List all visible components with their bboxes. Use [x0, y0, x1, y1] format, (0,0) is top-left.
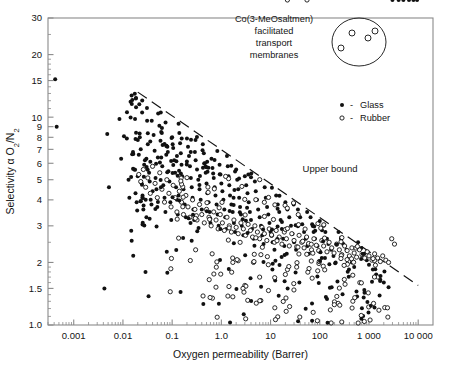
glass-point [367, 310, 371, 314]
rubber-point [207, 278, 211, 282]
glass-point [134, 137, 138, 141]
glass-point [378, 293, 382, 297]
glass-point [156, 200, 160, 204]
rubber-point [343, 282, 347, 286]
glass-point [171, 195, 175, 199]
rubber-point [181, 205, 185, 209]
rubber-point [275, 239, 279, 243]
rubber-point [378, 259, 382, 263]
glass-point [313, 229, 317, 233]
glass-point [148, 217, 152, 221]
rubber-point [297, 252, 301, 256]
rubber-point [177, 236, 181, 240]
glass-point [152, 133, 156, 137]
rubber-point [214, 265, 218, 269]
rubber-point [342, 277, 346, 281]
rubber-point [186, 205, 190, 209]
callout-cluster-point [349, 30, 355, 36]
glass-point [249, 299, 253, 303]
rubber-point [197, 202, 201, 206]
rubber-point [175, 217, 179, 221]
glass-point [259, 285, 263, 289]
glass-point [390, 0, 394, 2]
glass-point [249, 276, 253, 280]
glass-point [227, 183, 231, 187]
glass-point [130, 239, 134, 243]
glass-point [195, 167, 199, 171]
glass-point [163, 210, 167, 214]
rubber-point [169, 205, 173, 209]
rubber-point [292, 282, 296, 286]
rubber-point [305, 235, 309, 239]
rubber-point [297, 233, 301, 237]
glass-point [138, 132, 142, 136]
glass-point [142, 203, 146, 207]
rubber-point [214, 285, 218, 289]
rubber-point [244, 317, 248, 321]
rubber-point [309, 242, 313, 246]
glass-point [176, 174, 180, 178]
callout-cluster-point [365, 35, 371, 41]
glass-point [140, 183, 144, 187]
callout-line: Co(3-MeOsaltmen) [235, 14, 313, 24]
glass-point [190, 239, 194, 243]
glass-point [233, 169, 237, 173]
rubber-point [312, 237, 316, 241]
glass-point [327, 262, 331, 266]
rubber-point [265, 255, 269, 259]
glass-point [382, 269, 386, 273]
glass-point [171, 146, 175, 150]
series-glass [53, 0, 419, 290]
rubber-point [310, 276, 314, 280]
glass-point [236, 187, 240, 191]
rubber-point [305, 0, 309, 2]
y-tick-label: 6 [37, 158, 42, 169]
rubber-point [220, 200, 224, 204]
rubber-point [298, 315, 302, 319]
rubber-point [188, 258, 192, 262]
glass-point [169, 159, 173, 163]
glass-point [387, 285, 391, 289]
robeson-plot-svg: 0.0010.010.11.0101001 00010 0001.01.5234… [0, 0, 458, 382]
glass-point [133, 191, 137, 195]
glass-point [347, 275, 351, 279]
rubber-point [323, 268, 327, 272]
glass-point [177, 131, 181, 135]
rubber-point [258, 299, 262, 303]
glass-point [165, 250, 169, 254]
rubber-point [335, 294, 339, 298]
x-tick-label: 1.0 [215, 330, 228, 341]
glass-point [129, 100, 133, 104]
glass-point [153, 207, 157, 211]
rubber-point [291, 201, 295, 205]
glass-point [297, 280, 301, 284]
rubber-point [231, 256, 235, 260]
glass-point [189, 221, 193, 225]
glass-point [352, 265, 356, 269]
glass-point [145, 106, 149, 110]
rubber-point [311, 310, 315, 314]
glass-point [218, 163, 222, 167]
rubber-point [209, 224, 213, 228]
rubber-point [215, 260, 219, 264]
rubber-point [390, 237, 394, 241]
rubber-point [265, 238, 269, 242]
rubber-point [314, 243, 318, 247]
x-tick-label: 100 [312, 330, 328, 341]
glass-point [179, 171, 183, 175]
glass-point [159, 185, 163, 189]
glass-point [379, 274, 383, 278]
rubber-point [283, 272, 287, 276]
glass-point [174, 159, 178, 163]
rubber-point [212, 272, 216, 276]
rubber-point [230, 270, 234, 274]
glass-point [325, 297, 329, 301]
rubber-point [227, 226, 231, 230]
glass-point [401, 0, 405, 2]
glass-point [234, 287, 238, 291]
glass-point [131, 254, 135, 258]
rubber-point [322, 244, 326, 248]
rubber-point [235, 258, 239, 262]
glass-point [318, 219, 322, 223]
rubber-point [231, 260, 235, 264]
